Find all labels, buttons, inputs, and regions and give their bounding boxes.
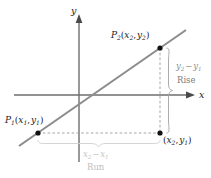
corner-comma: , [175,135,178,145]
x-axis [14,92,195,99]
run-expr-minus: − [92,149,99,159]
y-axis [76,14,83,162]
point-marker-p2 [157,45,162,50]
point-marker-p1 [35,130,40,135]
run-word-label: Run [87,163,104,172]
rise-brace [167,48,173,133]
rise-expr-second-sub: 1 [198,66,202,72]
run-brace [38,140,160,147]
p2-paren-close: ) [146,30,150,40]
run-expr-second-sub: 1 [105,154,109,160]
run-expression-label: x2 − x1 [83,150,109,160]
x-axis-label: x [199,90,204,100]
rise-expr-minus: − [185,61,192,71]
corner-paren-close: ) [188,135,192,145]
p1-comma: , [27,115,30,125]
slope-diagram-figure: y x P2(x2, y2) P1(x1, y1) (x2, y1) y2 − … [0,0,211,178]
point-label-corner: (x2, y1) [163,136,192,146]
run-expr-first-sub: 2 [88,154,92,160]
p2-comma: , [133,30,136,40]
rise-expr-first-sub: 2 [181,66,185,72]
rise-expression-label: y2 − y1 [176,62,202,72]
point-label-p1: P1(x1, y1) [5,116,43,126]
y-axis-label: y [71,6,76,16]
point-marker-corner [157,130,162,135]
p1-paren-close: ) [40,115,44,125]
point-label-p2: P2(x2, y2) [111,31,149,41]
rise-word-label: Rise [177,76,196,85]
